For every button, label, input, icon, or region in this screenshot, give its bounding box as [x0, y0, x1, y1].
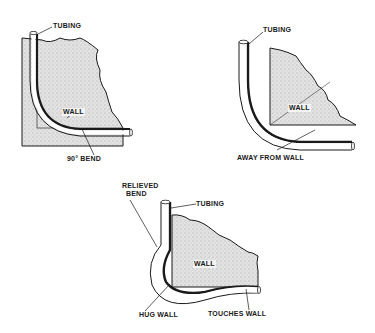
label-tubing-2: TUBING	[263, 26, 291, 34]
diagram-away-from-wall	[239, 32, 356, 150]
diagram-canvas	[0, 0, 375, 333]
label-90-bend: 90° BEND	[67, 155, 101, 163]
diagram-90-bend	[22, 27, 132, 155]
wall-shape	[270, 48, 356, 125]
label-wall-1: WALL	[62, 108, 85, 116]
label-tubing-3: TUBING	[196, 200, 224, 208]
wall-shape	[172, 215, 258, 287]
label-touches-wall: TOUCHES WALL	[208, 310, 266, 318]
diagram-relieved-bend	[130, 200, 261, 311]
label-hug-wall: HUG WALL	[139, 311, 178, 319]
label-bend: BEND	[126, 190, 147, 198]
label-tubing-1: TUBING	[53, 22, 81, 30]
label-wall-3: WALL	[193, 260, 216, 268]
label-relieved: RELIEVED	[122, 182, 159, 190]
label-away-from-wall: AWAY FROM WALL	[237, 154, 304, 162]
label-wall-2: WALL	[288, 104, 311, 112]
